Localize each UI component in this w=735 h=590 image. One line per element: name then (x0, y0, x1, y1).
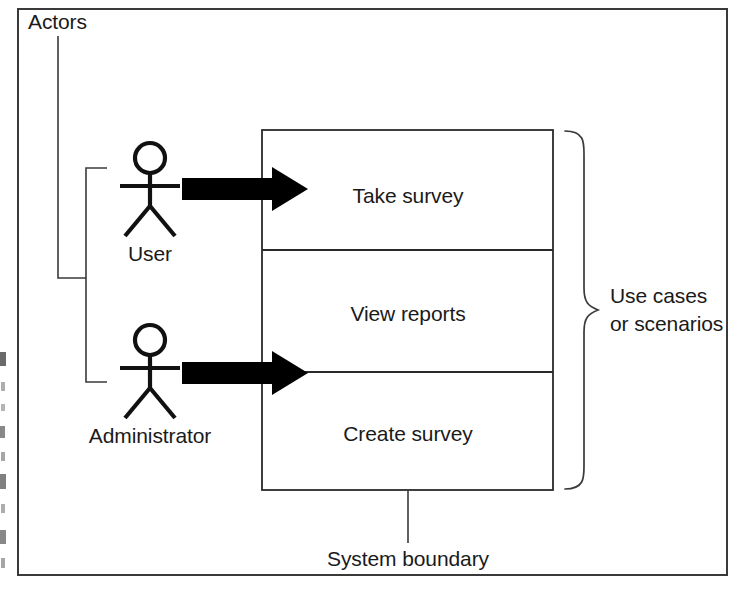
system-boundary-label: System boundary (327, 547, 490, 570)
use-case-take-survey-label: Take survey (353, 184, 465, 207)
actor-administrator-figure (120, 325, 180, 418)
use-cases-label-line-2: or scenarios (610, 312, 723, 335)
actor-user-figure (120, 143, 180, 236)
use-case-create-survey-label: Create survey (343, 422, 473, 445)
actors-leader (58, 36, 107, 382)
use-case-diagram-figure: User Administrator Take survey View repo… (0, 0, 735, 590)
use-cases-label-line-1: Use cases (610, 284, 707, 307)
use-cases-brace (565, 131, 598, 489)
use-case-view-reports-label: View reports (350, 302, 465, 325)
actors-label: Actors (28, 10, 87, 33)
actor-administrator-label: Administrator (89, 424, 212, 447)
actor-user-label: User (128, 242, 172, 265)
page-margin-marks (0, 352, 6, 568)
association-arrow-administrator-create-survey (182, 351, 308, 395)
association-arrow-user-take-survey (182, 167, 308, 211)
diagram-canvas: User Administrator Take survey View repo… (0, 0, 735, 590)
